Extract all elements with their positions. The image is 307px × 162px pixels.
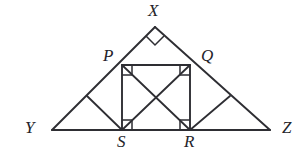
side-YX [52,27,155,130]
cevian-R-to-midQZ [190,96,230,130]
vertex-label-Q: Q [201,47,213,64]
geometry-canvas [0,0,307,162]
vertex-label-R: R [184,133,194,150]
cevian-S-to-midYP [87,96,122,130]
vertex-label-P: P [103,47,113,64]
vertex-label-Y: Y [25,119,34,136]
side-XZ [155,27,270,130]
vertex-label-X: X [148,2,158,19]
vertex-label-Z: Z [282,119,291,136]
geometry-figure: X P Q Y Z S R [0,0,307,162]
right-angle-at-X-icon [146,36,164,45]
vertex-label-S: S [117,133,126,150]
